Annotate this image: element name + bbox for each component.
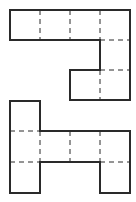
top-net-fold-lines [40,10,130,100]
cube-nets-diagram [0,0,136,202]
bottom-net [10,101,130,193]
top-net [10,10,130,100]
bottom-net-outline [10,101,130,193]
bottom-net-fold-lines [10,131,130,162]
